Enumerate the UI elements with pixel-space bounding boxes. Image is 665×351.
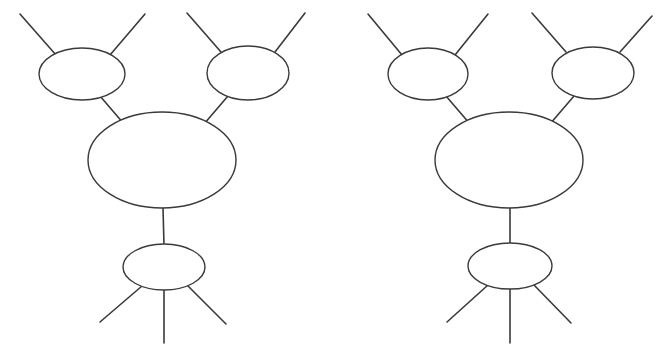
left-diagram-center-blob: [88, 112, 236, 208]
right-diagram-upper-left-blob: [388, 48, 468, 100]
left-diagram-upper-right-blob: [207, 46, 289, 100]
diagram-canvas-container: [0, 0, 665, 351]
right-diagram-upper-right-blob: [552, 47, 634, 99]
diagram-canvas: [0, 0, 665, 351]
right-diagram-bottom-blob: [468, 243, 552, 289]
right-diagram-center-blob: [435, 112, 583, 208]
left-diagram-upper-left-blob: [39, 48, 125, 100]
left-diagram-center-to-bottom: [163, 208, 164, 245]
left-diagram-bottom-blob: [123, 244, 205, 290]
